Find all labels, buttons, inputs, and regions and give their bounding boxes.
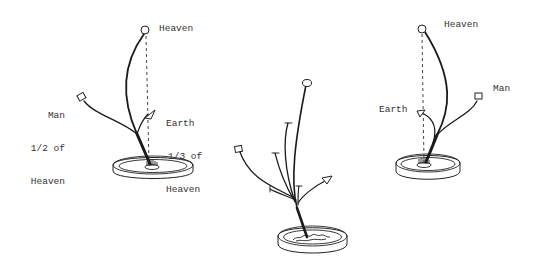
label-heaven-right: Heaven [444, 19, 478, 30]
heaven-circle-icon [418, 25, 426, 33]
heaven-branch-left [126, 34, 144, 134]
label-man-line1: Man [25, 110, 65, 121]
label-man-right: Man [493, 83, 510, 94]
label-man-line3: Heaven [25, 176, 65, 187]
label-earth-left: Earth 1/3 of Heaven [166, 96, 202, 217]
label-man-line2: 1/2 of [25, 143, 65, 154]
label-heaven-left: Heaven [159, 23, 193, 34]
man-square-icon [475, 93, 482, 99]
heaven-circle-icon [303, 80, 312, 87]
man-branch-right [437, 101, 477, 135]
heaven-branch-middle [294, 85, 306, 208]
label-earth-line1: Earth [166, 118, 202, 129]
heaven-axis-left [146, 36, 149, 164]
heaven-axis-right [422, 34, 424, 162]
man-square-icon [235, 145, 243, 152]
man-branch-left [84, 101, 137, 134]
label-earth-right: Earth [379, 104, 408, 115]
figure-middle [235, 80, 347, 254]
label-man-left: Man 1/2 of Heaven [25, 88, 65, 209]
ikebana-diagram: Heaven Man 1/2 of Heaven Earth 1/3 of He… [0, 0, 538, 271]
heaven-branch-right [425, 32, 447, 135]
earth-branch-right [424, 114, 435, 143]
figure-right [396, 25, 482, 179]
earth-triangle-icon [322, 176, 332, 184]
earth-triangle-icon [145, 110, 155, 119]
label-earth-line2: 1/3 of [166, 151, 202, 162]
man-square-icon [77, 92, 86, 101]
earth-branch-middle [298, 181, 325, 203]
label-earth-line3: Heaven [166, 184, 202, 195]
dish-middle [278, 226, 347, 253]
heaven-circle-icon [141, 26, 149, 34]
